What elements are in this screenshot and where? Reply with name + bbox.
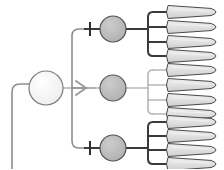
branch-top-interneuron-soma — [100, 16, 126, 42]
muscle-fiber-layer — [167, 6, 217, 170]
muscle-fiber — [167, 64, 217, 77]
neural-circuit-diagram — [0, 0, 224, 169]
circuit-canvas — [0, 0, 224, 169]
muscle-fiber — [167, 144, 217, 157]
branch-top-comb-spine — [148, 12, 153, 56]
branch-middle-interneuron-soma — [100, 75, 126, 101]
muscle-fiber — [167, 79, 217, 92]
branch-bottom-interneuron-soma — [100, 135, 126, 161]
source-neuron-soma — [29, 71, 63, 105]
muscle-fiber — [167, 6, 217, 19]
muscle-fiber — [167, 94, 217, 107]
muscle-fiber — [167, 36, 217, 49]
muscle-fiber — [167, 130, 217, 143]
source-axon — [12, 84, 29, 169]
muscle-fiber — [167, 50, 217, 63]
branch-bottom-comb-spine — [148, 122, 153, 164]
muscle-fiber — [167, 21, 217, 34]
branch-middle-comb-spine — [148, 70, 153, 114]
